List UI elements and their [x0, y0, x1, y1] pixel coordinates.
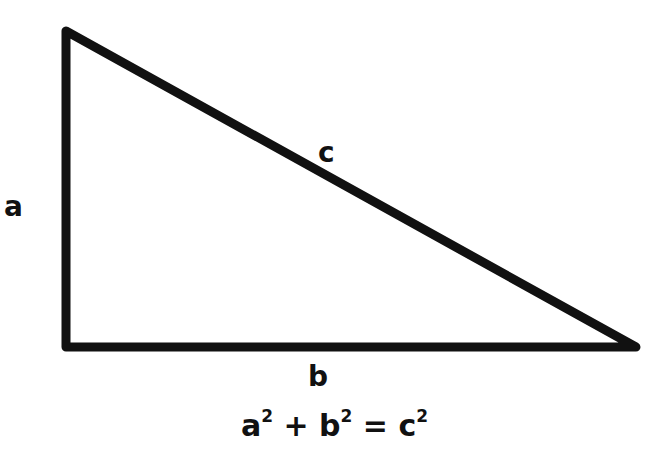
eq-a-exp: 2 [261, 406, 273, 426]
pythagorean-equation: a2 + b2 = c2 [0, 408, 669, 443]
right-triangle [0, 0, 669, 462]
side-a-label: a [4, 190, 23, 223]
eq-c-exp: 2 [416, 406, 428, 426]
eq-b: b [319, 408, 340, 443]
side-c-label: c [318, 136, 335, 169]
triangle-outline [66, 31, 636, 347]
eq-equals: = [352, 408, 398, 443]
side-b-label: b [308, 360, 328, 393]
eq-c: c [398, 408, 416, 443]
eq-a: a [241, 408, 261, 443]
eq-b-exp: 2 [341, 406, 353, 426]
eq-plus: + [273, 408, 319, 443]
